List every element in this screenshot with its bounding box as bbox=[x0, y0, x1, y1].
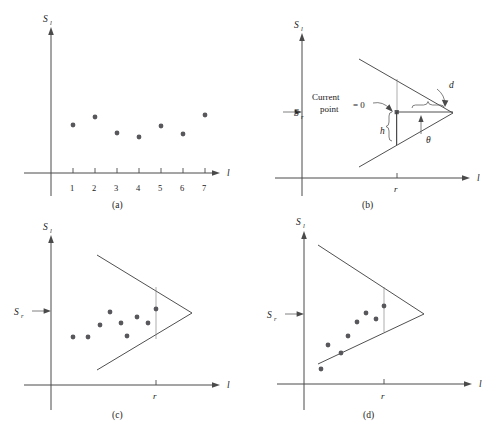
panel-c-x-axis-label: l bbox=[227, 380, 230, 390]
data-point bbox=[71, 123, 76, 128]
panel-a-y-axis-arrowhead bbox=[48, 27, 54, 35]
panel-c-sr-leader-arrowhead bbox=[44, 308, 51, 314]
panel-a-svg: S l l 1 2 3 4 5 6 7 (a) bbox=[0, 0, 249, 212]
data-point bbox=[115, 131, 120, 136]
panel-c: S r S l l r (c) bbox=[0, 212, 249, 425]
panel-a-tick-label: 5 bbox=[158, 183, 162, 193]
panel-b-y-axis-label: S bbox=[294, 20, 299, 30]
panel-d-y-axis-label: S bbox=[296, 217, 301, 227]
panel-a-y-axis-label-sub: l bbox=[50, 19, 52, 26]
panel-b-current-label-line1: Current bbox=[312, 92, 340, 102]
panel-c-caption: (c) bbox=[112, 410, 123, 421]
panel-d-sr-label: S bbox=[267, 310, 272, 320]
panel-d-caption: (d) bbox=[363, 410, 374, 421]
panel-c-sr-label: S bbox=[14, 307, 19, 317]
panel-c-y-axis-arrowhead bbox=[48, 235, 54, 243]
panel-a-data-points bbox=[71, 113, 208, 140]
panel-d-sr-leader-arrowhead bbox=[297, 311, 304, 317]
panel-c-svg: S r S l l r (c) bbox=[0, 212, 249, 425]
panel-a-x-axis-label: l bbox=[227, 168, 230, 178]
panel-b-caption: (b) bbox=[362, 200, 373, 211]
panel-b-sr-label-sub: r bbox=[301, 113, 304, 120]
panel-d-x-axis-arrowhead bbox=[464, 381, 472, 387]
data-point bbox=[119, 321, 124, 326]
data-point bbox=[125, 334, 130, 339]
panel-a-y-axis-label: S bbox=[43, 14, 48, 24]
data-point bbox=[319, 367, 324, 372]
data-point bbox=[137, 135, 142, 140]
panel-b-theta-leader-arrowhead bbox=[418, 115, 423, 122]
figure-container: S l l 1 2 3 4 5 6 7 (a) bbox=[0, 0, 498, 425]
panel-b-x-axis-arrowhead bbox=[462, 175, 470, 181]
data-point bbox=[346, 334, 351, 339]
data-point bbox=[159, 124, 164, 129]
panel-c-y-axis-label: S bbox=[43, 222, 48, 232]
data-point bbox=[339, 351, 344, 356]
panel-c-x-axis-arrowhead bbox=[212, 382, 220, 388]
panel-a: S l l 1 2 3 4 5 6 7 (a) bbox=[0, 0, 249, 212]
panel-a-tick-label: 7 bbox=[202, 183, 206, 193]
panel-a-x-axis-arrowhead bbox=[212, 170, 220, 176]
panel-b-x-axis-label: l bbox=[477, 173, 480, 183]
panel-a-tick-label: 1 bbox=[70, 183, 74, 193]
panel-a-ticks bbox=[73, 168, 205, 173]
panel-c-r-label: r bbox=[153, 391, 157, 401]
panel-a-caption: (a) bbox=[112, 200, 123, 211]
data-point bbox=[146, 321, 151, 326]
panel-b-d-label: d bbox=[449, 80, 454, 90]
panel-b-theta-label: θ bbox=[426, 135, 431, 145]
panel-d-r-label: r bbox=[381, 391, 385, 401]
panel-b: S r S l l r Current point = 0 d h θ (b) bbox=[249, 0, 498, 212]
panel-a-tick-label: 4 bbox=[136, 183, 141, 193]
panel-d-svg: S r S l l r (d) bbox=[249, 212, 498, 425]
data-point bbox=[382, 304, 387, 309]
data-point bbox=[203, 113, 208, 118]
data-point bbox=[86, 335, 91, 340]
data-point bbox=[154, 307, 159, 312]
panel-b-svg: S r S l l r Current point = 0 d h θ (b) bbox=[249, 0, 498, 212]
panel-a-tick-label: 3 bbox=[114, 183, 118, 193]
panel-a-tick-label: 2 bbox=[92, 183, 96, 193]
data-point bbox=[93, 115, 98, 120]
data-point bbox=[181, 132, 186, 137]
panel-b-current-label-line2: point bbox=[320, 104, 339, 114]
data-point bbox=[364, 311, 369, 316]
data-point bbox=[98, 323, 103, 328]
data-point bbox=[71, 335, 76, 340]
data-point bbox=[326, 343, 331, 348]
panel-b-h-brace bbox=[386, 112, 392, 141]
panel-b-r-label: r bbox=[394, 184, 398, 194]
panel-c-y-axis-label-sub: l bbox=[50, 227, 52, 234]
panel-c-sr-label-sub: r bbox=[21, 312, 24, 319]
panel-d-data-points bbox=[319, 304, 387, 372]
panel-b-wedge bbox=[359, 59, 453, 167]
panel-d-y-axis-arrowhead bbox=[301, 231, 307, 239]
panel-b-sr-label: S bbox=[294, 108, 299, 118]
data-point bbox=[355, 320, 360, 325]
panel-b-current-point-leader-arrowhead bbox=[386, 104, 393, 112]
panel-b-h-label: h bbox=[380, 126, 385, 136]
data-point bbox=[374, 317, 379, 322]
panel-d-wedge bbox=[318, 245, 424, 364]
data-point bbox=[108, 310, 113, 315]
panel-d: S r S l l r (d) bbox=[249, 212, 498, 425]
panel-b-d-brace bbox=[412, 102, 444, 109]
panel-d-sr-label-sub: r bbox=[274, 315, 277, 322]
panel-d-x-axis-label: l bbox=[479, 379, 482, 389]
panel-b-y-axis-label-sub: l bbox=[301, 25, 303, 32]
panel-a-tick-label: 6 bbox=[180, 183, 184, 193]
panel-b-zero-label: = 0 bbox=[353, 100, 365, 110]
panel-d-y-axis-label-sub: l bbox=[303, 222, 305, 229]
data-point bbox=[135, 315, 140, 320]
panel-b-y-axis-arrowhead bbox=[299, 33, 305, 41]
panel-c-data-points bbox=[71, 307, 159, 340]
